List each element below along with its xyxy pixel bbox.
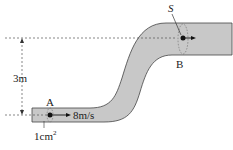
pipe-flow-diagram: 3m A 8m/s 1cm2 B S	[0, 0, 233, 150]
point-a-label: A	[46, 97, 54, 108]
height-label: 3m	[13, 73, 27, 84]
pipe-drawing	[0, 0, 233, 150]
area-b-label: S	[168, 3, 174, 14]
speed-label: 8m/s	[73, 110, 94, 121]
point-b-label: B	[176, 59, 183, 70]
area-label: 1cm2	[34, 130, 56, 142]
